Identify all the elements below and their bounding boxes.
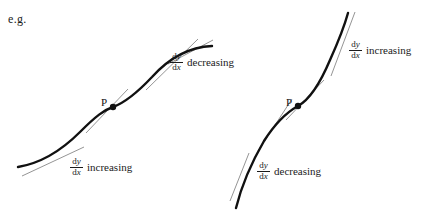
figure-canvas: e.g. P P dy <box>0 0 422 212</box>
left-point-p-label: P <box>101 96 107 108</box>
derivative-fraction: dy dx <box>170 52 183 73</box>
right-inflection-point-dot <box>295 103 301 109</box>
annotation-word: decreasing <box>187 56 234 68</box>
fraction-numerator: dy <box>350 40 361 49</box>
derivative-fraction: dy dx <box>257 161 270 182</box>
annotation-word: decreasing <box>274 165 321 177</box>
right-point-p-label: P <box>286 96 292 108</box>
fraction-numerator: dy <box>171 52 182 61</box>
left-upper-annotation: dy dx decreasing <box>170 52 234 73</box>
fraction-denominator: dx <box>350 51 361 60</box>
fraction-denominator: dx <box>71 168 82 177</box>
fraction-numerator: dy <box>71 157 82 166</box>
derivative-fraction: dy dx <box>70 157 83 178</box>
right-upper-annotation: dy dx increasing <box>349 40 411 61</box>
left-lower-annotation: dy dx increasing <box>70 157 132 178</box>
annotation-word: increasing <box>366 44 411 56</box>
curves-illustration <box>0 0 422 212</box>
left-inflection-point-dot <box>110 104 116 110</box>
right-lower-annotation: dy dx decreasing <box>257 161 321 182</box>
fraction-denominator: dx <box>171 63 182 72</box>
fraction-numerator: dy <box>258 161 269 170</box>
derivative-fraction: dy dx <box>349 40 362 61</box>
fraction-denominator: dx <box>258 172 269 181</box>
annotation-word: increasing <box>87 161 132 173</box>
